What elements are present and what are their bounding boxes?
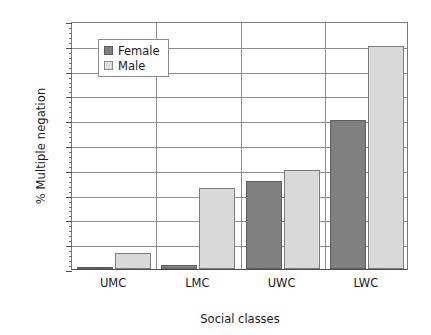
y-tick-major xyxy=(66,73,72,74)
bar-uwc-male xyxy=(284,170,320,269)
y-tick-major xyxy=(66,221,72,222)
y-tick-minor xyxy=(69,68,73,69)
bar-uwc-female xyxy=(246,181,282,269)
bar-umc-female xyxy=(77,267,113,269)
legend-item-female: Female xyxy=(104,43,160,58)
legend-label: Male xyxy=(118,59,145,73)
y-tick-minor xyxy=(69,38,73,39)
y-tick-major xyxy=(66,271,72,272)
bar-lmc-female xyxy=(161,265,197,269)
x-tick-label-lwc: LWC xyxy=(324,276,408,290)
y-tick-minor xyxy=(69,87,73,88)
y-axis-title: % Multiple negation xyxy=(34,36,48,256)
y-tick-minor xyxy=(69,192,73,193)
legend-label: Female xyxy=(118,44,160,58)
y-tick-minor xyxy=(69,177,73,178)
y-tick-minor xyxy=(69,256,73,257)
gridline-horizontal xyxy=(72,97,407,98)
y-tick-minor xyxy=(69,251,73,252)
y-tick-minor xyxy=(69,53,73,54)
x-tick-label-lmc: LMC xyxy=(155,276,239,290)
y-tick-minor xyxy=(69,102,73,103)
bar-lwc-male xyxy=(368,46,404,269)
bar-lwc-female xyxy=(330,120,366,269)
y-tick-minor xyxy=(69,207,73,208)
y-tick-minor xyxy=(69,107,73,108)
bar-umc-male xyxy=(115,253,151,269)
y-tick-major xyxy=(66,197,72,198)
y-tick-minor xyxy=(69,112,73,113)
x-tick-label-uwc: UWC xyxy=(240,276,324,290)
y-tick-major xyxy=(66,23,72,24)
legend-swatch-icon xyxy=(104,46,113,55)
y-tick-minor xyxy=(69,92,73,93)
y-tick-major xyxy=(66,48,72,49)
y-tick-minor xyxy=(69,187,73,188)
bar-chart: % Multiple negation 01020304050607080901… xyxy=(0,0,431,335)
y-tick-minor xyxy=(69,117,73,118)
y-tick-minor xyxy=(69,78,73,79)
y-tick-minor xyxy=(69,28,73,29)
y-tick-minor xyxy=(69,182,73,183)
chart-legend: FemaleMale xyxy=(98,39,169,77)
y-tick-minor xyxy=(69,226,73,227)
y-tick-minor xyxy=(69,58,73,59)
y-tick-major xyxy=(66,97,72,98)
y-tick-minor xyxy=(69,216,73,217)
y-tick-minor xyxy=(69,202,73,203)
gridline-vertical xyxy=(241,23,242,269)
y-tick-minor xyxy=(69,236,73,237)
y-tick-minor xyxy=(69,127,73,128)
y-tick-minor xyxy=(69,167,73,168)
y-tick-major xyxy=(66,172,72,173)
y-tick-minor xyxy=(69,142,73,143)
y-tick-minor xyxy=(69,231,73,232)
y-tick-minor xyxy=(69,83,73,84)
y-tick-minor xyxy=(69,162,73,163)
y-tick-minor xyxy=(69,43,73,44)
y-tick-minor xyxy=(69,33,73,34)
y-tick-minor xyxy=(69,241,73,242)
y-tick-major xyxy=(66,122,72,123)
x-axis-title: Social classes xyxy=(70,312,410,326)
y-tick-minor xyxy=(69,152,73,153)
x-tick-label-umc: UMC xyxy=(71,276,155,290)
legend-swatch-icon xyxy=(104,61,113,70)
y-tick-minor xyxy=(69,211,73,212)
y-tick-minor xyxy=(69,157,73,158)
y-tick-minor xyxy=(69,266,73,267)
y-tick-minor xyxy=(69,137,73,138)
y-tick-major xyxy=(66,147,72,148)
y-tick-minor xyxy=(69,132,73,133)
gridline-vertical xyxy=(325,23,326,269)
y-tick-minor xyxy=(69,261,73,262)
bar-lmc-male xyxy=(199,188,235,269)
y-tick-minor xyxy=(69,63,73,64)
y-tick-major xyxy=(66,246,72,247)
legend-item-male: Male xyxy=(104,58,160,73)
